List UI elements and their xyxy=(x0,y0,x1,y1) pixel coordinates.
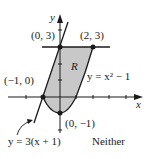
region-diagram: y x (0, 3) (2, 3) (−1, 0) (0, −1) R y = … xyxy=(0,0,152,159)
point-neg1-0 xyxy=(41,95,46,100)
point-0-3 xyxy=(58,45,63,50)
y-axis-label: y xyxy=(49,11,55,23)
label-point-neg1-0: (−1, 0) xyxy=(4,74,34,87)
label-point-0-neg1: (0, −1) xyxy=(65,117,95,130)
parabola-label: y = x² − 1 xyxy=(87,70,130,82)
classification-label: Neither xyxy=(92,135,125,147)
y-axis-arrow-icon xyxy=(57,14,63,23)
region-label: R xyxy=(70,60,78,72)
pointer-arrow-head-icon xyxy=(27,119,33,124)
label-point-2-3: (2, 3) xyxy=(80,29,104,42)
region-r xyxy=(43,47,93,113)
point-2-3 xyxy=(91,45,96,50)
label-point-0-3: (0, 3) xyxy=(31,29,55,42)
line-label: y = 3(x + 1) xyxy=(8,135,61,148)
x-axis-label: x xyxy=(135,98,141,110)
point-0-neg1 xyxy=(58,111,63,116)
